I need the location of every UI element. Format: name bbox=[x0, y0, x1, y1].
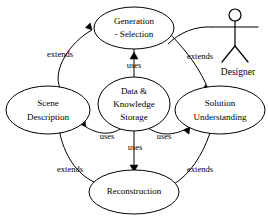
use-case-scene-description[interactable]: Scene Description bbox=[6, 86, 90, 134]
use-case-label-line: Scene bbox=[37, 98, 59, 108]
actor-head-icon bbox=[229, 9, 241, 21]
use-case-label-line: Data & bbox=[121, 86, 147, 96]
actor-label: Designer bbox=[221, 67, 256, 77]
edge-label-extends: extends bbox=[187, 164, 213, 174]
edge-label-extends: extends bbox=[187, 51, 213, 61]
use-case-label-line: Understanding bbox=[194, 112, 247, 122]
use-case-label-line: Solution bbox=[205, 98, 236, 108]
edge-label-uses: uses bbox=[128, 142, 143, 152]
edge-solution-to-reconstruction bbox=[165, 133, 210, 187]
actor-leg-right-icon bbox=[235, 46, 248, 62]
arrowhead-icon bbox=[130, 52, 138, 59]
use-case-label-line: Description bbox=[27, 112, 69, 122]
use-case-label-line: Reconstruction bbox=[107, 186, 162, 196]
edge-path bbox=[60, 134, 96, 183]
use-case-reconstruction[interactable]: Reconstruction bbox=[89, 170, 179, 214]
edge-label-uses: uses bbox=[157, 131, 172, 141]
use-case-label-line: - Selection bbox=[115, 29, 154, 39]
edge-path bbox=[58, 30, 92, 88]
edge-designer-to-generation bbox=[168, 27, 212, 44]
use-case-label-line: Storage bbox=[120, 112, 148, 122]
use-case-label-line: Generation bbox=[114, 16, 154, 26]
edge-label-uses: uses bbox=[127, 60, 142, 70]
edge-reconstruction-to-scene bbox=[56, 127, 96, 183]
use-case-generation-selection[interactable]: Generation - Selection bbox=[94, 7, 174, 49]
edge-label-extends: extends bbox=[47, 49, 73, 59]
edge-generation-to-solution bbox=[168, 32, 209, 93]
use-case-data-knowledge-storage[interactable]: Data & Knowledge Storage bbox=[98, 77, 170, 131]
use-case-solution-understanding[interactable]: Solution Understanding bbox=[175, 86, 265, 134]
edge-label-extends: extends bbox=[57, 164, 83, 174]
edge-path bbox=[174, 133, 210, 184]
ellipse-shape bbox=[6, 86, 90, 134]
use-case-label-line: Knowledge bbox=[113, 99, 155, 109]
use-case-nodes: Generation - Selection Data & Knowledge … bbox=[6, 7, 265, 214]
actor-leg-left-icon bbox=[222, 46, 235, 62]
edge-label-uses: uses bbox=[100, 131, 115, 141]
diagram-canvas: Generation - Selection Data & Knowledge … bbox=[0, 0, 268, 221]
actor-designer[interactable]: Designer bbox=[212, 9, 258, 77]
uml-use-case-diagram: Generation - Selection Data & Knowledge … bbox=[0, 0, 268, 221]
ellipse-shape bbox=[94, 7, 174, 49]
arrowhead-icon bbox=[85, 22, 94, 30]
edge-path bbox=[168, 27, 212, 44]
ellipse-shape bbox=[175, 86, 265, 134]
